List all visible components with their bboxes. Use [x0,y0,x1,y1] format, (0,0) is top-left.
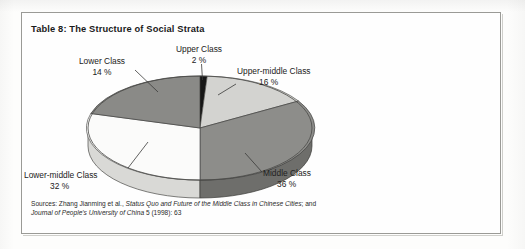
pie-label-lower-middle-value: 32 % [24,181,128,192]
pie-label-middle-value: 36 % [263,179,353,190]
sources-line-2-suffix: 5 (1998): 63 [144,209,181,216]
sources-line-2: Journal of People's University of China … [31,208,461,217]
pie-label-lower-value: 14 % [68,67,136,78]
pie-label-upper-middle-name: Upper-middle Class [237,66,341,77]
sources-note: Sources: Zhang Jianming et al., Status Q… [31,199,461,217]
pie-label-upper-middle-value: 16 % [237,77,341,88]
pie-label-lower-middle: Lower-middle Class 32 % [24,170,128,191]
sources-line-1-suffix: ; and [302,200,317,207]
sources-line-1: Sources: Zhang Jianming et al., Status Q… [31,199,461,208]
pie-label-middle: Middle Class 36 % [263,168,353,189]
pie-label-upper-value: 2 % [163,55,235,66]
pie-label-upper-middle: Upper-middle Class 16 % [237,66,341,87]
pie-label-upper-name: Upper Class [163,44,235,55]
page-title: Table 8: The Structure of Social Strata [31,24,205,34]
pie-label-middle-name: Middle Class [263,168,353,179]
sources-line-1-title: Status Quo and Future of the Middle Clas… [126,200,302,207]
sources-line-1-prefix: Sources: Zhang Jianming et al., [31,200,126,207]
sources-line-2-journal: Journal of People's University of China [31,209,144,216]
pie-label-upper: Upper Class 2 % [163,44,235,65]
pie-label-lower-middle-name: Lower-middle Class [24,170,128,181]
figure-page: Table 8: The Structure of Social Strata [0,0,525,249]
pie-label-lower: Lower Class 14 % [68,56,136,77]
pie-label-lower-name: Lower Class [68,56,136,67]
